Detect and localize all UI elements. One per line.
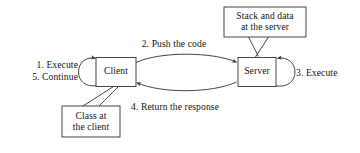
callout-client-text-line2: the client (62, 121, 120, 133)
client-self-loop-path (79, 58, 98, 86)
client-to-server-path (136, 54, 237, 62)
arrow-client-to-server (136, 54, 237, 62)
server-to-client-path (137, 82, 237, 91)
node-client-label: Client (96, 65, 136, 77)
step-label-3-execute: 3. Execute (296, 67, 356, 79)
node-server-label: Server (238, 65, 276, 77)
step-label-2-push-the-code: 2. Push the code (131, 38, 217, 50)
step-label-1-execute: 1. Execute (8, 59, 78, 71)
callout-client-text-line1: Class at (62, 110, 120, 122)
step-label-4-return-the-response: 4. Return the response (123, 101, 227, 113)
server-self-loop-path (276, 58, 295, 86)
arrow-server-self-loop (276, 58, 295, 86)
callout-server-leader-right (256, 37, 269, 57)
callout-server-leader-left (249, 37, 259, 57)
arrow-client-self-loop (79, 58, 98, 86)
callout-server-text-line1: Stack and data (224, 10, 306, 22)
step-label-5-continue: 5. Continue (8, 71, 78, 83)
diagram-canvas: Client Server 1. Execute 5. Continue 2. … (0, 0, 360, 153)
callout-server-text-line2: at the server (224, 21, 306, 33)
arrow-server-to-client (137, 82, 237, 91)
